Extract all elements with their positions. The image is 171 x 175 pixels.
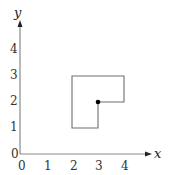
x-tick-2: 2: [70, 159, 78, 173]
x-tick-1: 1: [44, 159, 52, 173]
y-tick-3: 3: [10, 68, 18, 82]
x-axis-arrow-icon: [145, 152, 152, 157]
x-axis-label: x: [154, 146, 162, 161]
y-axis-label: y: [13, 5, 22, 20]
x-tick-4: 4: [121, 159, 129, 173]
x-tick-0: 0: [18, 159, 26, 173]
x-tick-3: 3: [95, 159, 103, 173]
y-tick-1: 1: [10, 120, 18, 134]
y-tick-4: 4: [10, 42, 18, 56]
y-tick-2: 2: [10, 94, 18, 108]
marked-point: [96, 100, 101, 105]
coordinate-diagram: y x 0 0 1 2 3 4 1 2 3 4: [0, 0, 171, 175]
y-axis-arrow-icon: [18, 20, 23, 27]
